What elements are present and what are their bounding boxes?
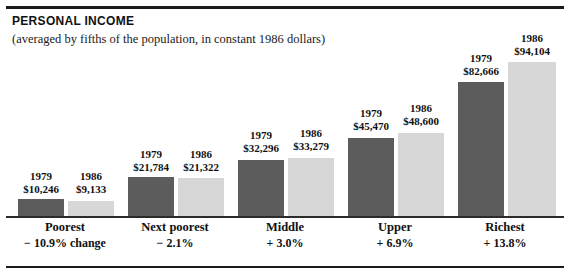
bar-label-1986-richest: 1986 $94,104	[500, 32, 564, 58]
bar-label-year: 1986	[500, 32, 564, 45]
bar-1986-next-poorest[interactable]	[178, 178, 224, 218]
category-name: Next poorest	[118, 220, 232, 235]
bar-label-value: $33,279	[280, 140, 342, 153]
bar-label-value: $21,322	[170, 161, 232, 174]
bar-1986-middle[interactable]	[288, 158, 334, 218]
category-change: − 10.9% change	[8, 235, 122, 252]
bar-label-1986-upper: 1986 $48,600	[390, 102, 452, 128]
bar-group-middle: 1979 $32,296 1986 $33,279	[232, 50, 338, 218]
bar-label-1986-middle: 1986 $33,279	[280, 127, 342, 153]
bar-pair	[342, 50, 448, 218]
category-name: Middle	[228, 220, 342, 235]
bar-1979-next-poorest[interactable]	[128, 177, 174, 218]
x-label-poorest: Poorest − 10.9% change	[8, 220, 122, 252]
bar-1986-upper[interactable]	[398, 133, 444, 218]
category-name: Upper	[338, 220, 452, 235]
chart-title: PERSONAL INCOME	[12, 14, 134, 28]
bar-group-poorest: 1979 $10,246 1986 $9,133	[12, 50, 118, 218]
category-change: + 3.0%	[228, 235, 342, 252]
bar-label-1986-next-poorest: 1986 $21,322	[170, 148, 232, 174]
x-label-middle: Middle + 3.0%	[228, 220, 342, 252]
chart-figure: PERSONAL INCOME (averaged by fifths of t…	[0, 0, 570, 280]
bar-1979-richest[interactable]	[458, 82, 504, 218]
category-change: + 6.9%	[338, 235, 452, 252]
bar-group-next-poorest: 1979 $21,784 1986 $21,322	[122, 50, 228, 218]
bar-label-value: $48,600	[390, 115, 452, 128]
chart-subtitle: (averaged by fifths of the population, i…	[12, 32, 325, 47]
bar-1979-upper[interactable]	[348, 138, 394, 218]
bar-label-value: $9,133	[60, 183, 122, 196]
category-name: Richest	[448, 220, 562, 235]
bar-group-richest: 1979 $82,666 1986 $94,104	[452, 50, 562, 218]
top-rule	[6, 6, 564, 9]
x-label-richest: Richest + 13.8%	[448, 220, 562, 252]
bar-label-value: $82,666	[448, 65, 514, 78]
category-name: Poorest	[8, 220, 122, 235]
axis-baseline	[6, 216, 564, 218]
bar-label-value: $94,104	[500, 45, 564, 58]
bar-group-upper: 1979 $45,470 1986 $48,600	[342, 50, 448, 218]
bottom-rule	[6, 266, 564, 268]
category-change: − 2.1%	[118, 235, 232, 252]
bar-1979-middle[interactable]	[238, 160, 284, 218]
bar-1986-richest[interactable]	[508, 62, 556, 218]
category-change: + 13.8%	[448, 235, 562, 252]
bar-label-year: 1986	[390, 102, 452, 115]
bar-label-1986-poorest: 1986 $9,133	[60, 170, 122, 196]
x-label-next-poorest: Next poorest − 2.1%	[118, 220, 232, 252]
bar-pair	[122, 50, 228, 218]
bar-label-year: 1986	[60, 170, 122, 183]
bar-label-year: 1986	[280, 127, 342, 140]
plot-area: 1979 $10,246 1986 $9,133 1979 $21,784 19…	[0, 48, 570, 218]
x-label-upper: Upper + 6.9%	[338, 220, 452, 252]
bar-label-year: 1986	[170, 148, 232, 161]
